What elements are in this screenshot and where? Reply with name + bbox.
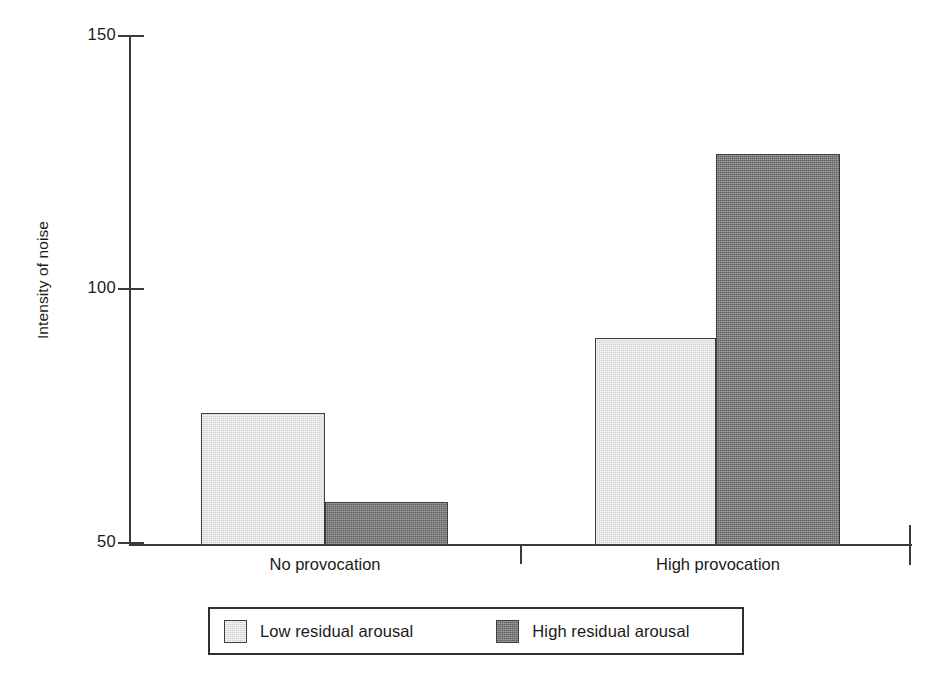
y-tick-label: 100 <box>88 279 116 296</box>
y-axis-tick-mark <box>118 542 144 544</box>
x-axis-tick-mark <box>909 525 911 565</box>
legend-label: Low residual arousal <box>260 622 413 641</box>
y-tick-label: 50 <box>97 533 116 550</box>
bar-no-provocation-high-arousal <box>325 502 448 545</box>
legend-label: High residual arousal <box>532 622 689 641</box>
legend-swatch-icon <box>496 620 519 643</box>
y-axis-spine <box>129 36 131 546</box>
x-category-label-no-provocation: No provocation <box>215 555 435 574</box>
y-axis-tick-mark <box>118 35 144 37</box>
bar-no-provocation-low-arousal <box>201 413 325 545</box>
legend-entry-low-residual-arousal: Low residual arousal <box>224 620 413 643</box>
y-tick-label: 150 <box>88 26 116 43</box>
bar-high-provocation-low-arousal <box>595 338 716 545</box>
legend-entry-high-residual-arousal: High residual arousal <box>496 620 689 643</box>
legend-swatch-icon <box>224 620 247 643</box>
y-axis-title: Intensity of noise <box>34 160 52 400</box>
x-axis-tick-mark <box>520 544 522 564</box>
y-axis-tick-mark <box>118 288 144 290</box>
legend: Low residual arousal High residual arous… <box>208 607 744 655</box>
x-category-label-high-provocation: High provocation <box>608 555 828 574</box>
bar-high-provocation-high-arousal <box>716 154 840 545</box>
bar-chart: Intensity of noise 150 100 50 No provoca… <box>0 0 943 680</box>
